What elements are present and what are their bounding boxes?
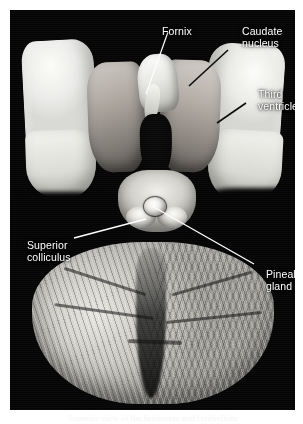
label-third-ventricle: Third ventricle bbox=[258, 89, 295, 112]
label-pineal-gland: Pineal gland bbox=[266, 269, 295, 292]
label-superior-colliculus: Superior colliculus bbox=[27, 240, 71, 263]
pineal-gland-body bbox=[144, 197, 166, 216]
third-ventricle-cavity bbox=[139, 114, 172, 179]
anatomical-figure-plate: Fornix Caudate nucleus Third ventricle S… bbox=[10, 10, 295, 410]
figure-caption: Superior view of the brainstem and cereb… bbox=[10, 413, 295, 423]
cleft-shadow-right bbox=[182, 188, 295, 250]
label-fornix: Fornix bbox=[162, 26, 192, 38]
label-caudate-nucleus: Caudate nucleus bbox=[242, 26, 282, 49]
left-hemisphere-lower bbox=[25, 129, 97, 199]
specimen-photograph bbox=[10, 10, 295, 410]
